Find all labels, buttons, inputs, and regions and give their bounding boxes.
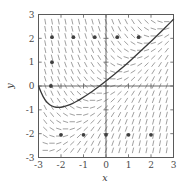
plot-canvas: -3-2-10123 -3-2-10123 x y bbox=[0, 0, 186, 189]
y-tick-label: 2 bbox=[29, 34, 35, 44]
data-point-marker bbox=[50, 35, 54, 39]
data-point-marker bbox=[149, 133, 153, 137]
y-tick-label: -2 bbox=[26, 129, 35, 139]
data-point-marker bbox=[127, 133, 131, 137]
x-tick-label: 2 bbox=[148, 160, 154, 170]
y-axis-label: y bbox=[4, 83, 15, 90]
x-tick-label: -3 bbox=[34, 160, 43, 170]
data-point-marker bbox=[104, 133, 108, 137]
y-tick-label: -1 bbox=[26, 105, 35, 115]
data-point-marker bbox=[93, 35, 97, 39]
y-tick-label: 1 bbox=[29, 57, 35, 67]
y-tick-label: 3 bbox=[29, 10, 35, 20]
data-point-marker bbox=[137, 35, 141, 39]
slope-field-figure: -3-2-10123 -3-2-10123 x y bbox=[0, 0, 186, 189]
data-point-marker bbox=[115, 35, 119, 39]
data-point-marker bbox=[59, 133, 63, 137]
y-tick-label: -3 bbox=[26, 153, 35, 163]
y-tick-label: 0 bbox=[29, 81, 35, 91]
x-axis-label: x bbox=[102, 172, 108, 183]
x-tick-label: 0 bbox=[103, 160, 109, 170]
data-point-marker bbox=[71, 35, 75, 39]
data-point-marker bbox=[50, 60, 54, 64]
data-point-marker bbox=[82, 133, 86, 137]
x-tick-label: 3 bbox=[171, 160, 177, 170]
x-tick-label: -1 bbox=[79, 160, 88, 170]
x-tick-label: -2 bbox=[57, 160, 66, 170]
x-tick-label: 1 bbox=[126, 160, 132, 170]
data-point-marker bbox=[49, 84, 53, 88]
